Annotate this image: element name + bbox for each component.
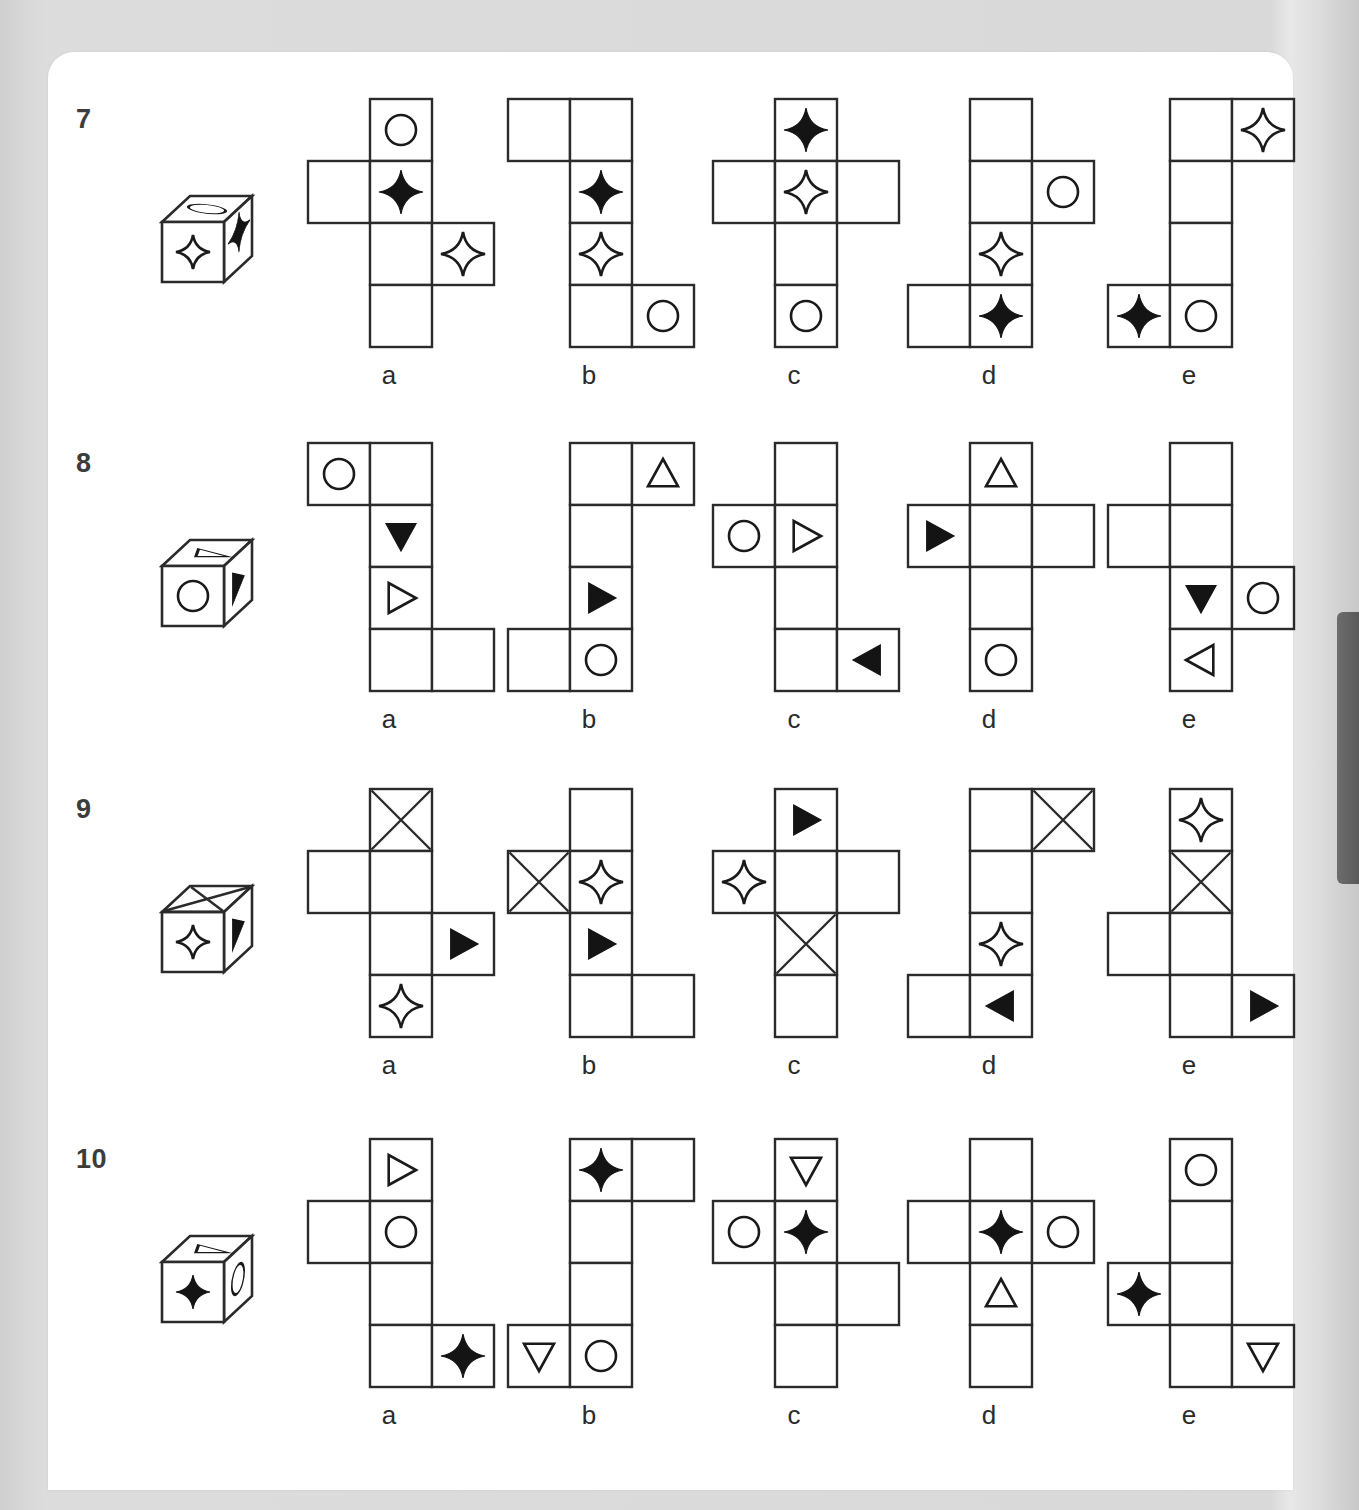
- puzzle-row: 10abcde: [0, 1136, 1359, 1476]
- question-number: 10: [76, 1144, 107, 1175]
- option-label-c: c: [764, 704, 824, 735]
- cube-net-e[interactable]: [1105, 440, 1297, 694]
- option-label-b: b: [559, 1400, 619, 1431]
- cube-net-c[interactable]: [710, 1136, 902, 1390]
- option-label-a: a: [359, 1050, 419, 1081]
- cube-net-c[interactable]: [710, 786, 902, 1040]
- option-label-d: d: [959, 1400, 1019, 1431]
- option-label-b: b: [559, 704, 619, 735]
- option-label-e: e: [1159, 360, 1219, 391]
- cube-net-c[interactable]: [710, 440, 902, 694]
- cube-net-b[interactable]: [505, 1136, 697, 1390]
- option-label-a: a: [359, 360, 419, 391]
- reference-cube: [148, 182, 260, 290]
- option-label-a: a: [359, 704, 419, 735]
- cube-net-a[interactable]: [305, 96, 497, 350]
- cube-net-a[interactable]: [305, 786, 497, 1040]
- cube-net-a[interactable]: [305, 440, 497, 694]
- cube-net-a[interactable]: [305, 1136, 497, 1390]
- cube-net-d[interactable]: [905, 786, 1097, 1040]
- cube-net-d[interactable]: [905, 1136, 1097, 1390]
- puzzle-row: 9abcde: [0, 786, 1359, 1126]
- option-label-a: a: [359, 1400, 419, 1431]
- option-label-d: d: [959, 1050, 1019, 1081]
- cube-net-b[interactable]: [505, 786, 697, 1040]
- puzzle-sheet: 7abcde8abcde9abcde10abcde: [0, 0, 1359, 1510]
- question-number: 9: [76, 794, 92, 825]
- question-number: 8: [76, 448, 92, 479]
- cube-net-d[interactable]: [905, 440, 1097, 694]
- reference-cube: [148, 872, 260, 980]
- puzzle-row: 8abcde: [0, 440, 1359, 780]
- cube-net-e[interactable]: [1105, 1136, 1297, 1390]
- cube-net-c[interactable]: [710, 96, 902, 350]
- cube-net-e[interactable]: [1105, 786, 1297, 1040]
- cube-net-b[interactable]: [505, 440, 697, 694]
- reference-cube: [148, 526, 260, 634]
- option-label-e: e: [1159, 1050, 1219, 1081]
- cube-net-b[interactable]: [505, 96, 697, 350]
- option-label-c: c: [764, 360, 824, 391]
- option-label-c: c: [764, 1050, 824, 1081]
- option-label-e: e: [1159, 1400, 1219, 1431]
- option-label-d: d: [959, 360, 1019, 391]
- option-label-b: b: [559, 360, 619, 391]
- option-label-b: b: [559, 1050, 619, 1081]
- option-label-c: c: [764, 1400, 824, 1431]
- cube-net-d[interactable]: [905, 96, 1097, 350]
- puzzle-row: 7abcde: [0, 96, 1359, 436]
- option-label-e: e: [1159, 704, 1219, 735]
- option-label-d: d: [959, 704, 1019, 735]
- reference-cube: [148, 1222, 260, 1330]
- question-number: 7: [76, 104, 92, 135]
- cube-net-e[interactable]: [1105, 96, 1297, 350]
